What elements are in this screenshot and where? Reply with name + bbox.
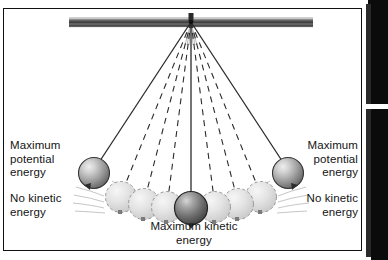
screenshot-page: Maximum potential energy No kinetic ener… [0,0,388,260]
scan-artifact-right-lower [371,108,388,260]
scan-artifact-right-upper [371,2,388,110]
label-left-maximum-potential-energy: Maximum potential energy [10,139,92,180]
string-dashed-right-1 [191,22,215,206]
string-dashed-right-3 [191,22,261,195]
label-left-no-kinetic-energy: No kinetic energy [10,192,92,219]
pendulum-figure-frame: Maximum potential energy No kinetic ener… [3,8,362,251]
string-dashed-left-3 [121,22,191,195]
string-left-extreme [94,22,191,170]
pivot-point [189,20,193,24]
label-right-no-kinetic-energy: No kinetic energy [274,192,358,219]
label-bottom-maximum-kinetic-energy: Maximum kinetic energy [114,220,274,247]
scan-artifact-right-notch [366,104,388,109]
scan-artifact-right-seam [366,4,371,257]
string-dashed-left-1 [167,22,191,206]
string-dashed-left-2 [144,22,191,202]
string-dashed-right-2 [191,22,238,202]
pendulum-strings-solid [94,22,288,208]
label-right-maximum-potential-energy: Maximum potential energy [274,139,358,180]
scan-artifact-top-right [368,0,388,9]
